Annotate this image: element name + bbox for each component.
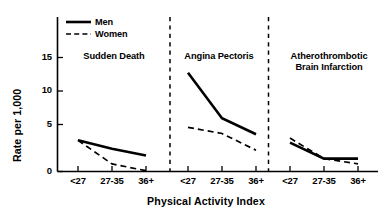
x-axis-title: Physical Activity Index (96, 196, 316, 208)
chart-figure: Men Women Sudden Death Angina Pectoris A… (0, 0, 386, 215)
x-tick-label-p3-36plus: 36+ (336, 176, 380, 187)
y-axis-title: Rate per 1,000 (12, 89, 24, 162)
panel-title-brain-infarction-line2: Brain Infarction (276, 62, 382, 72)
series-men-angina-pectoris (188, 73, 256, 135)
legend-men-label: Men (95, 17, 113, 27)
y-tick-label-5: 5 (22, 119, 52, 130)
panel-title-angina-pectoris: Angina Pectoris (172, 51, 266, 61)
legend-women-label: Women (95, 29, 128, 39)
series-women-brain-infarction (290, 138, 358, 164)
panel-title-brain-infarction-line1: Atherothrombotic (276, 51, 382, 61)
y-tick-label-10: 10 (22, 85, 52, 96)
y-tick-label-15: 15 (22, 52, 52, 63)
panel-title-sudden-death: Sudden Death (62, 51, 166, 61)
x-tick-label-p1-36plus: 36+ (124, 176, 168, 187)
y-tick-label-0: 0 (22, 166, 52, 177)
